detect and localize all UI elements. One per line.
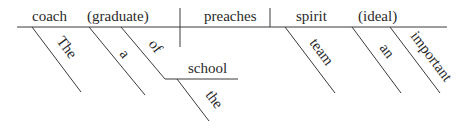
modifier-an: an [377,40,399,61]
modifier-team: team [307,35,338,68]
predicate-word: preaches [204,8,257,24]
preposition-of: of [146,36,166,56]
modifier-line-an [352,27,401,93]
subject-appositive-word: (graduate) [87,8,149,25]
subject-word: coach [32,8,67,24]
sentence-diagram: coach (graduate) preaches spirit (ideal)… [0,0,466,130]
object-word: spirit [296,8,328,24]
modifier-the-school: the [203,87,227,112]
object-appositive-word: (ideal) [358,8,397,25]
modifier-line-the [32,27,81,92]
modifier-important: important [408,28,456,85]
modifier-line-a [89,27,145,95]
prep-object-school: school [188,60,227,76]
modifier-a: a [117,46,134,61]
modifier-line-the-school [177,79,209,121]
modifier-the: The [54,33,81,62]
